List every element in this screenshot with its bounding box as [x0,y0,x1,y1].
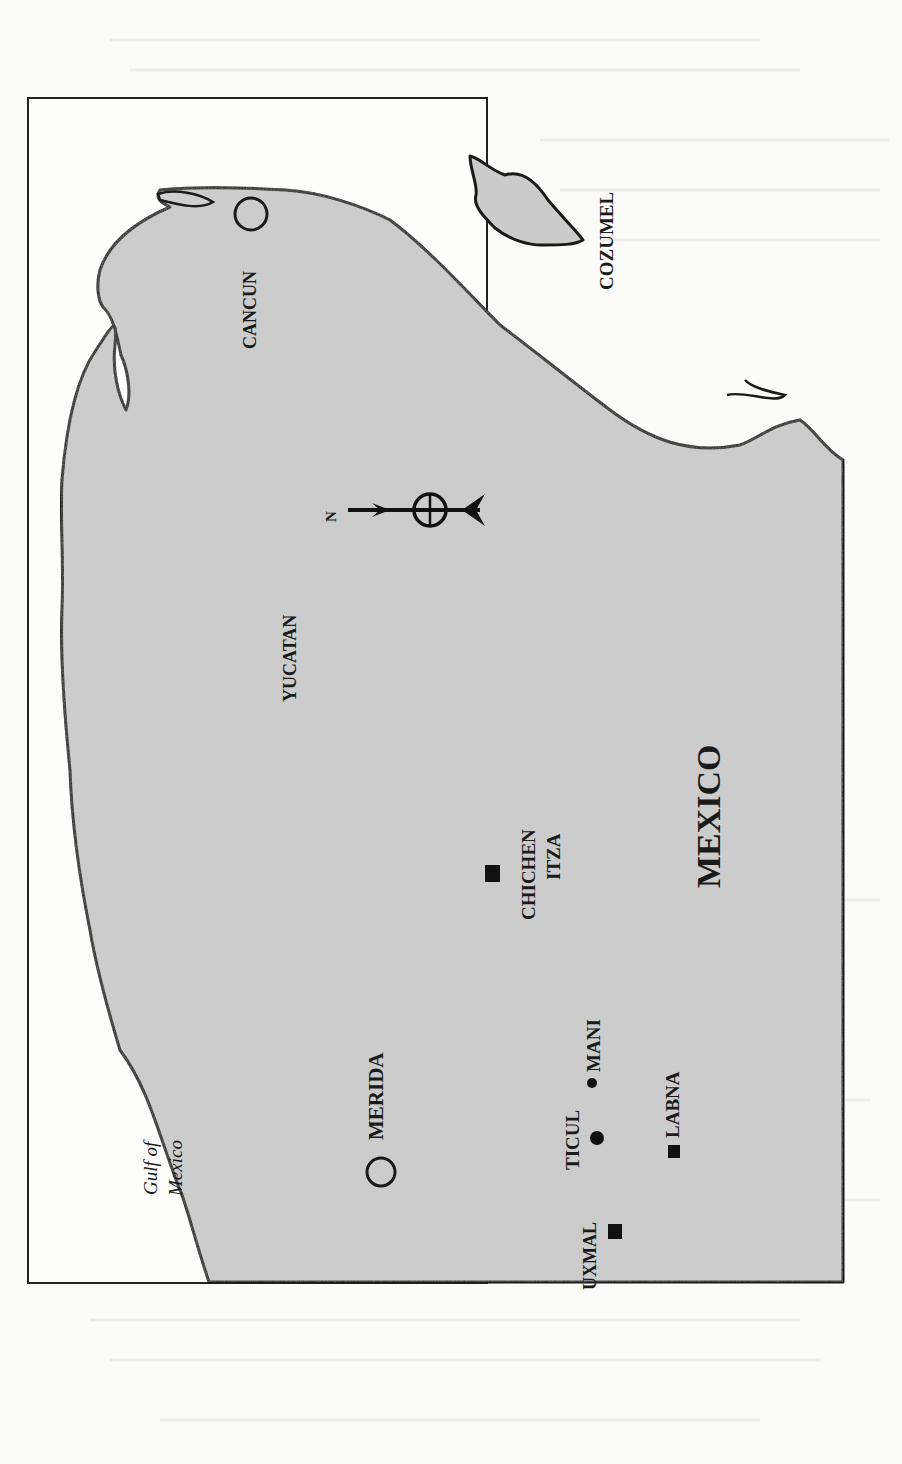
label-yucatan: YUCATAN [280,615,301,702]
uxmal-marker [608,1224,622,1239]
label-chichen: CHICHEN [518,829,540,920]
labna-marker [668,1145,680,1158]
label-mexico: MEXICO [690,744,728,888]
label-mani: MANI [583,1019,605,1072]
label-cancun: CANCUN [240,271,261,349]
label-itza: ITZA [543,834,565,880]
label-ticul: TICUL [562,1110,584,1170]
chichen-itza-marker [485,865,500,882]
coast-hook [727,380,785,399]
label-uxmal: UXMAL [580,1222,601,1290]
label-labna: LABNA [662,1071,684,1138]
label-cozumel: COZUMEL [596,192,618,290]
label-merida: MERIDA [364,1053,389,1141]
label-north: N [323,511,340,522]
yucatan-map [0,0,902,1464]
label-gulf-line2: Mexico [165,1140,187,1196]
label-gulf-line1: Gulf of [140,1142,162,1195]
ticul-marker [590,1131,604,1145]
cozumel-island [470,156,583,245]
mani-marker [587,1078,597,1088]
